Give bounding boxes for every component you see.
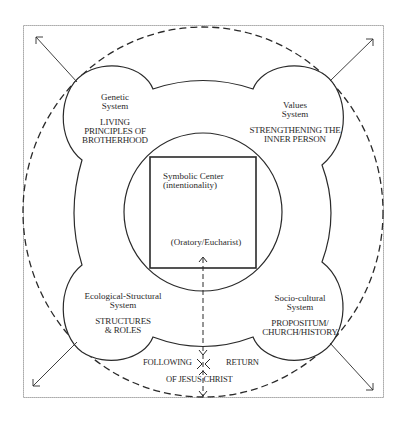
systems-diagram: [0, 0, 402, 421]
system-name: Socio-cultural System: [250, 294, 350, 312]
values-system-label: Values System STRENGTHENING THE INNER PE…: [240, 101, 350, 144]
symbolic-center-title: Symbolic Center (intentionality): [163, 172, 253, 190]
arrow-bottom-left-icon: [33, 342, 77, 386]
system-theme: STRENGTHENING THE INNER PERSON: [240, 126, 350, 144]
chevron-left-icon: [205, 359, 210, 369]
oratory-eucharist-label: (Oratory/Eucharist): [160, 238, 252, 247]
socio-cultural-system-label: Socio-cultural System PROPOSITUM/ CHURCH…: [250, 294, 350, 337]
system-theme: LIVING PRINCIPLES OF BROTHERHOOD: [73, 118, 157, 145]
of-jesus-christ-label: OF JESUS CHRIST: [166, 374, 232, 384]
following-label: FOLLOWING: [143, 357, 192, 367]
system-name: Genetic System: [73, 93, 157, 111]
ecological-structural-system-label: Ecological-Structural System STRUCTURES …: [68, 292, 178, 335]
system-name: Ecological-Structural System: [68, 292, 178, 310]
system-theme: STRUCTURES & ROLES: [68, 317, 178, 335]
return-label: RETURN: [226, 357, 259, 367]
chevron-right-icon: [197, 359, 202, 369]
arrow-top-right-icon: [330, 39, 373, 81]
system-name: Values System: [240, 101, 350, 119]
arrow-bottom-right-icon: [330, 343, 373, 390]
arrow-top-left-icon: [36, 37, 77, 82]
arrow-down-bottom-icon: [199, 391, 207, 396]
genetic-system-label: Genetic System LIVING PRINCIPLES OF BROT…: [73, 93, 157, 145]
system-theme: PROPOSITUM/ CHURCH/HISTORY: [250, 319, 350, 337]
